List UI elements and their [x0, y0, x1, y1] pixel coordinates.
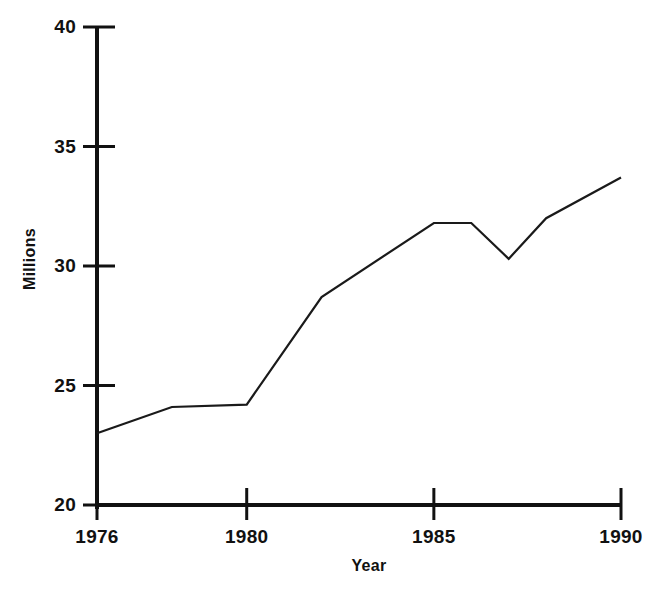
x-axis-group — [95, 488, 622, 520]
x-tick-label: 1990 — [599, 526, 642, 548]
y-axis-group — [83, 27, 115, 509]
line-chart-figure: 2025303540 1976198019851990 Millions Yea… — [0, 0, 660, 591]
y-axis-title: Millions — [21, 230, 39, 290]
chart-plot-area — [0, 0, 660, 591]
y-tick-label: 40 — [28, 16, 76, 38]
y-tick-label: 25 — [28, 375, 76, 397]
y-tick-label: 35 — [28, 136, 76, 158]
x-axis-title: Year — [351, 557, 386, 575]
x-tick-label: 1985 — [412, 526, 455, 548]
data-series-line — [97, 178, 621, 434]
x-tick-label: 1980 — [225, 526, 268, 548]
y-tick-label: 20 — [28, 494, 76, 516]
x-tick-label: 1976 — [75, 526, 118, 548]
